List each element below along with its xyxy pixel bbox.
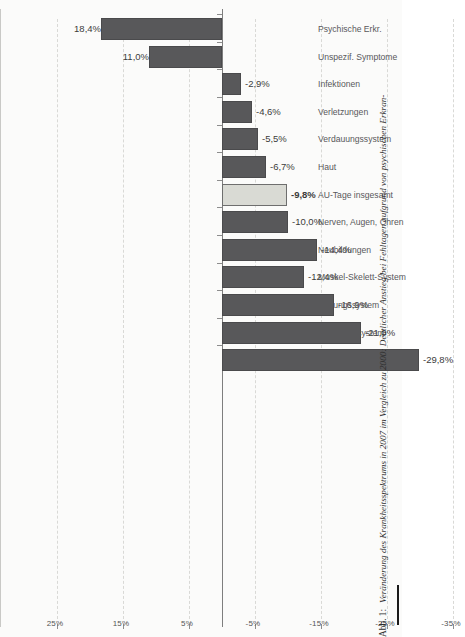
category-tick xyxy=(217,290,222,291)
gridline xyxy=(453,19,454,619)
bar xyxy=(101,18,222,40)
bar xyxy=(222,266,304,288)
bar-value-label: 11,0% xyxy=(101,51,149,62)
caption-rule xyxy=(397,585,399,625)
category-tick xyxy=(217,235,222,236)
value-tick-label: 25% xyxy=(44,619,66,628)
category-tick xyxy=(217,97,222,98)
bar xyxy=(149,46,222,68)
category-tick xyxy=(217,152,222,153)
bar xyxy=(222,156,266,178)
bar-value-label: 18,4% xyxy=(53,23,101,34)
value-axis-spine xyxy=(0,9,1,627)
bar-value-label: -2,9% xyxy=(245,78,293,89)
value-tick-label: -15% xyxy=(308,619,330,628)
category-tick xyxy=(217,69,222,70)
category-tick xyxy=(217,318,222,319)
category-tick xyxy=(217,180,222,181)
bar-value-label: -29,8% xyxy=(423,354,465,365)
bar-value-label: -4,6% xyxy=(256,106,304,117)
category-tick xyxy=(217,263,222,264)
category-tick xyxy=(217,207,222,208)
bar xyxy=(222,73,241,95)
value-tick-label: 5% xyxy=(176,619,198,628)
category-tick xyxy=(217,345,222,346)
bar xyxy=(222,101,252,123)
value-tick-label: -35% xyxy=(440,619,462,628)
bar xyxy=(222,211,288,233)
bar-value-label: -5,5% xyxy=(262,133,310,144)
bar-value-label: -6,7% xyxy=(270,161,318,172)
bar xyxy=(222,294,334,316)
gridline xyxy=(189,19,190,619)
value-tick-label: 15% xyxy=(110,619,132,628)
category-tick xyxy=(217,42,222,43)
bar xyxy=(222,239,317,261)
bar xyxy=(222,128,258,150)
value-tick-label: -5% xyxy=(242,619,264,628)
category-tick xyxy=(217,14,222,15)
gridline xyxy=(57,19,58,619)
figure-caption-label: Abb. 1: xyxy=(378,609,388,637)
gridline xyxy=(123,19,124,619)
category-tick xyxy=(217,125,222,126)
figure-caption-text: Veränderung des Krankheitsspektrums in 2… xyxy=(378,95,388,603)
bar xyxy=(222,184,287,206)
figure-caption: Abb. 1: Veränderung des Krankheitsspektr… xyxy=(378,0,400,637)
